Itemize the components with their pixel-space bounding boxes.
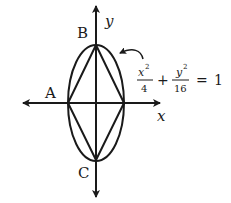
pointer-arrow-icon (120, 50, 143, 59)
eq-term2-exponent: 2 (183, 63, 187, 71)
eq-rhs: 1 (214, 72, 223, 88)
eq-term1-numerator: x (138, 66, 145, 79)
eq-term1-exponent: 2 (145, 63, 149, 71)
ellipse-equation: x 2 4 + y 2 16 = 1 (137, 63, 223, 94)
eq-plus: + (157, 72, 169, 88)
eq-term2-numerator: y (175, 66, 183, 79)
x-axis-label: x (157, 107, 166, 125)
eq-term1-denominator: 4 (141, 83, 147, 94)
eq-equals: = (196, 72, 208, 88)
ellipse-diagram: B A C y x x 2 4 + y 2 16 = 1 (0, 0, 231, 203)
point-label-a: A (44, 84, 56, 102)
point-label-b: B (77, 24, 88, 42)
point-label-c: C (78, 164, 89, 182)
y-axis-label: y (104, 12, 114, 30)
eq-term2-denominator: 16 (174, 83, 187, 94)
